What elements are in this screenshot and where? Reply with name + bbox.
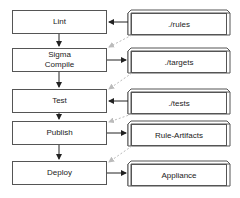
step-lint: Lint xyxy=(12,10,107,34)
resource-label: Appliance xyxy=(161,171,196,180)
resource-label: ./targets xyxy=(165,58,194,67)
resource-label: ./rules xyxy=(168,20,190,29)
step-label: Sigma Compile xyxy=(45,50,74,70)
resource-appliance: Appliance xyxy=(131,164,227,186)
step-label: Publish xyxy=(46,128,72,138)
step-test: Test xyxy=(12,89,107,113)
resource-rule-artifacts: Rule-Artifacts xyxy=(131,124,227,146)
resource-rules: ./rules xyxy=(131,13,227,35)
step-sigma-compile: Sigma Compile xyxy=(12,48,107,72)
step-label: Deploy xyxy=(47,168,72,178)
resource-targets: ./targets xyxy=(131,51,227,73)
step-label: Test xyxy=(52,96,67,106)
step-publish: Publish xyxy=(12,121,107,145)
step-deploy: Deploy xyxy=(12,161,107,185)
step-label: Lint xyxy=(53,17,66,27)
resource-label: ./tests xyxy=(168,99,189,108)
resource-label: Rule-Artifacts xyxy=(155,131,203,140)
pipeline-diagram: Lint Sigma Compile Test Publish Deploy .… xyxy=(0,0,240,198)
resource-tests: ./tests xyxy=(131,92,227,114)
